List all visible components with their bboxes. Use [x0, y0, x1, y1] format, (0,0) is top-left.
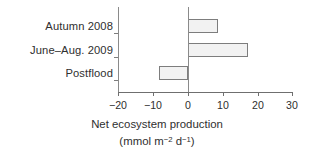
x-axis-title-text: Net ecosystem production	[91, 118, 223, 130]
y-tick-mark-postflood	[114, 80, 118, 81]
x-axis-units-prefix: (mmol m	[119, 135, 163, 147]
x-tick-label-10: 10	[203, 99, 243, 111]
plot-area: −20 −10 0 10 20 30	[118, 7, 293, 92]
x-tick-label--20: −20	[98, 99, 138, 111]
net-ecosystem-production-bar-chart: Autumn 2008 June–Aug. 2009 Postflood −20…	[0, 0, 314, 158]
category-label-autumn-2008: Autumn 2008	[45, 20, 113, 32]
x-tick-label-30: 30	[272, 99, 312, 111]
y-axis-spine	[118, 7, 119, 92]
x-tick-mark--10	[153, 92, 154, 96]
x-tick-mark-30	[292, 92, 293, 96]
x-tick-mark-10	[223, 92, 224, 96]
x-axis-units-middle: d	[173, 135, 183, 147]
x-tick-mark-0	[188, 92, 189, 96]
category-label-june-aug-2009: June–Aug. 2009	[30, 44, 113, 56]
x-axis-units-exponent-day: −1	[182, 135, 191, 144]
x-axis-units-exponent-area: −2	[164, 135, 173, 144]
bar-postflood	[159, 66, 188, 80]
y-tick-mark-june-aug-2009	[114, 57, 118, 58]
category-label-postflood: Postflood	[65, 67, 113, 79]
x-axis-title: Net ecosystem production (mmol m−2 d−1)	[0, 117, 314, 149]
x-tick-label-0: 0	[168, 99, 208, 111]
x-tick-label--10: −10	[133, 99, 173, 111]
y-tick-mark-autumn-2008	[114, 33, 118, 34]
bar-autumn-2008	[188, 19, 218, 33]
bar-june-aug-2009	[188, 43, 248, 57]
x-axis-spine	[118, 92, 293, 93]
x-axis-units: (mmol m−2 d−1)	[0, 132, 314, 149]
x-tick-mark--20	[118, 92, 119, 96]
zero-reference-line	[188, 7, 189, 92]
x-axis-units-suffix: )	[191, 135, 195, 147]
x-tick-mark-20	[258, 92, 259, 96]
